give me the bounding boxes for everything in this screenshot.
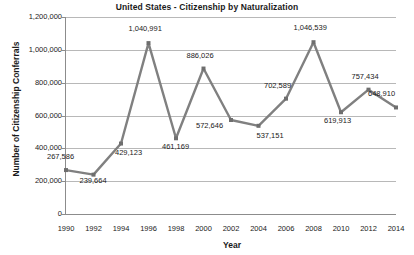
x-axis-line: [65, 214, 396, 215]
data-point-label: 757,434: [352, 72, 379, 81]
data-point-label: 648,910: [368, 89, 395, 98]
chart-title: United States - Citizenship by Naturaliz…: [0, 2, 414, 12]
y-tick-label: 1,200,000: [2, 12, 62, 21]
x-axis-label: Year: [66, 240, 398, 250]
data-point-label: 702,589: [264, 81, 291, 90]
y-tick-label: 600,000: [2, 111, 62, 120]
gridline: [66, 17, 396, 18]
y-tick-label: 0: [2, 209, 62, 218]
data-point-label: 239,664: [80, 176, 107, 185]
y-tick-label: 800,000: [2, 78, 62, 87]
y-tick-label: 400,000: [2, 143, 62, 152]
y-tick-label: 200,000: [2, 176, 62, 185]
x-tick-label: 2014: [379, 224, 413, 233]
data-point-label: 886,026: [187, 51, 214, 60]
data-point-label: 619,913: [324, 116, 351, 125]
data-point-label: 1,040,991: [129, 24, 162, 33]
data-point-label: 267,586: [47, 152, 74, 161]
y-tick-label: 1,000,000: [2, 45, 62, 54]
data-point-label: 461,169: [162, 142, 189, 151]
data-point-label: 1,046,539: [294, 23, 327, 32]
data-point-label: 572,646: [196, 121, 223, 130]
data-point-label: 537,151: [257, 131, 284, 140]
chart-container: United States - Citizenship by Naturaliz…: [0, 0, 414, 255]
gridline: [66, 83, 396, 84]
data-point-label: 429,123: [115, 148, 142, 157]
gridline: [66, 50, 396, 51]
gridline: [66, 181, 396, 182]
y-axis-line: [65, 17, 66, 215]
